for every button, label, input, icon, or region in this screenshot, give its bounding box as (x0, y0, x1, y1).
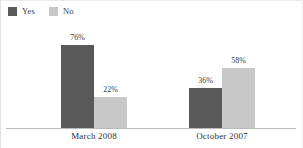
bar-march-2008-no (94, 97, 127, 128)
bar-chart: Yes No 76% 22% March 2008 36% 58% Octobe… (0, 0, 303, 148)
bar-value-october-2007-yes: 36% (186, 77, 225, 85)
category-label-march-2008: March 2008 (44, 132, 144, 141)
bar-value-march-2008-no: 22% (91, 86, 130, 94)
bar-value-march-2008-yes: 76% (58, 34, 97, 42)
bar-march-2008-yes (61, 45, 94, 128)
bar-october-2007-no (222, 68, 255, 128)
plot-area: 76% 22% March 2008 36% 58% October 2007 (0, 0, 303, 148)
x-axis-baseline (6, 128, 296, 129)
bar-october-2007-yes (189, 88, 222, 128)
bar-value-october-2007-no: 58% (219, 57, 258, 65)
category-label-october-2007: October 2007 (172, 132, 272, 141)
